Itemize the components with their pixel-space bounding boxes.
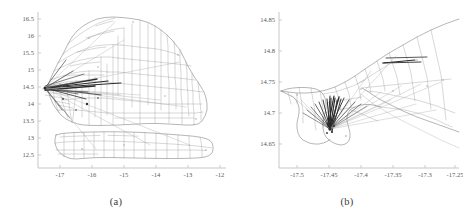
panel-b-ytick-label: 14.7 bbox=[263, 109, 275, 116]
panel-a: 16.5 16 15.5 15 14.5 14 13.5 13 12.5 -17… bbox=[0, 0, 232, 209]
panel-a-ytick-label: 13 bbox=[27, 134, 34, 141]
panel-a-flow-lines bbox=[45, 22, 190, 149]
panel-b-xtick-label: -17.5 bbox=[290, 171, 304, 178]
panel-b-xtick-label: -17.45 bbox=[320, 171, 338, 178]
panel-a-ytick-label: 12.5 bbox=[22, 151, 34, 158]
panel-a-xtick-label: -13 bbox=[184, 171, 193, 178]
panel-b-xtick-label: -17.4 bbox=[354, 171, 368, 178]
panel-b-axes bbox=[279, 12, 459, 168]
panel-a-caption: (a) bbox=[0, 196, 232, 207]
panel-b-peninsula-outline bbox=[281, 88, 381, 146]
panel-b-flow-lines bbox=[291, 56, 441, 131]
panel-a-xtick-label: -12 bbox=[216, 171, 225, 178]
panel-a-xtick-label: -17 bbox=[56, 171, 65, 178]
panel-a-ytick-label: 15 bbox=[27, 66, 34, 73]
panel-a-district-boundaries bbox=[42, 18, 203, 125]
panel-a-ytick-label: 13.5 bbox=[22, 117, 34, 124]
panel-a-ytick-label: 14.5 bbox=[22, 83, 34, 90]
panel-a-plot: 16.5 16 15.5 15 14.5 14 13.5 13 12.5 -17… bbox=[0, 0, 232, 185]
panel-a-xtick-label: -16 bbox=[88, 171, 97, 178]
panel-b-coastline bbox=[281, 19, 459, 148]
panel-b-caption: (b) bbox=[231, 196, 463, 207]
panel-a-xtick-label: -14 bbox=[152, 171, 161, 178]
panel-b: 14.85 14.8 14.75 14.7 14.65 -17.5 -17.45… bbox=[231, 0, 463, 209]
panel-b-xtick-label: -17.3 bbox=[418, 171, 432, 178]
panel-a-ytick-label: 16.5 bbox=[22, 15, 34, 22]
panel-a-x-ticks: -17 -16 -15 -14 -13 -12 bbox=[56, 165, 225, 178]
panel-a-ytick-label: 14 bbox=[27, 100, 34, 107]
panel-b-ytick-label: 14.8 bbox=[263, 47, 275, 54]
panel-b-ytick-label: 14.75 bbox=[260, 78, 276, 85]
panel-a-xtick-label: -15 bbox=[120, 171, 129, 178]
panel-b-ytick-label: 14.65 bbox=[260, 140, 276, 147]
panel-b-ytick-label: 14.85 bbox=[260, 16, 276, 23]
panel-a-ytick-label: 16 bbox=[27, 32, 34, 39]
panel-b-xtick-label: -17.25 bbox=[446, 171, 463, 178]
panel-a-senegal-outline bbox=[47, 17, 207, 126]
panel-a-ytick-label: 15.5 bbox=[22, 49, 34, 56]
panel-b-plot: 14.85 14.8 14.75 14.7 14.65 -17.5 -17.45… bbox=[231, 0, 463, 185]
panel-b-nodes bbox=[296, 59, 443, 137]
panel-b-xtick-label: -17.35 bbox=[384, 171, 402, 178]
figure-container: 16.5 16 15.5 15 14.5 14 13.5 13 12.5 -17… bbox=[0, 0, 463, 209]
panel-b-x-ticks: -17.5 -17.45 -17.4 -17.35 -17.3 -17.25 bbox=[290, 165, 463, 178]
